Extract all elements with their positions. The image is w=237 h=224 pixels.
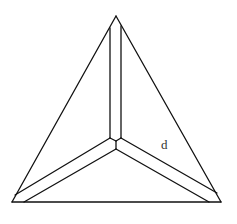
center-junction (110, 138, 121, 149)
left-edge (12, 16, 116, 202)
triangle-diagram: d (0, 0, 237, 224)
junction-right-cap (116, 138, 121, 141)
outer-triangle (12, 16, 221, 202)
junction-left-cap (110, 138, 116, 141)
vertical-strip (110, 26, 121, 138)
lower-left-strip-upper-line (15, 138, 110, 195)
label-d: d (161, 137, 168, 152)
right-edge (116, 16, 221, 202)
lower-right-strip-upper-line (121, 138, 217, 193)
